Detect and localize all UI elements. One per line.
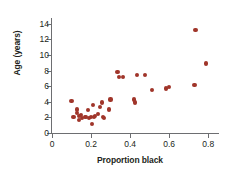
y-tick-label: 2: [44, 112, 49, 122]
scatter-plot-figure: Age (years) Proportion black 02468101214…: [0, 0, 238, 175]
data-point: [108, 97, 112, 101]
y-tick-label: 4: [44, 97, 49, 107]
x-tick-mark: [169, 133, 170, 138]
x-tick-mark: [91, 133, 92, 138]
x-tick-label: 0.4: [124, 139, 136, 149]
data-point: [167, 85, 171, 89]
data-point: [98, 105, 102, 109]
plot-area: 02468101214 00.20.40.60.8: [52, 19, 218, 133]
x-tick-label: 0.2: [85, 139, 97, 149]
x-axis-line: [51, 133, 219, 134]
data-point: [69, 99, 73, 103]
y-tick-label: 6: [44, 81, 49, 91]
data-point: [133, 100, 137, 104]
data-point: [204, 61, 208, 65]
data-point: [102, 116, 106, 120]
data-point: [121, 75, 125, 79]
x-tick-label: 0.6: [163, 139, 175, 149]
data-point: [193, 28, 197, 32]
y-tick-label: 8: [44, 66, 49, 76]
data-point: [107, 107, 111, 111]
data-point: [86, 108, 90, 112]
y-tick-label: 14: [40, 19, 49, 29]
y-tick-label: 12: [40, 34, 49, 44]
data-point: [90, 122, 94, 126]
x-tick-label: 0: [50, 139, 55, 149]
data-point: [115, 70, 119, 74]
x-tick-mark: [130, 133, 131, 138]
x-tick-mark: [208, 133, 209, 138]
data-point: [100, 100, 104, 104]
data-point: [96, 112, 100, 116]
data-point: [150, 88, 154, 92]
x-tick-mark: [52, 133, 53, 138]
data-point: [91, 103, 95, 107]
y-tick-label: 10: [40, 50, 49, 60]
y-axis-label: Age (years): [12, 8, 22, 98]
data-point: [135, 73, 139, 77]
y-tick-label: 0: [44, 128, 49, 138]
data-point: [71, 115, 75, 119]
data-point: [192, 83, 196, 87]
x-axis-label: Proportion black: [30, 155, 230, 165]
data-point: [143, 73, 147, 77]
x-tick-label: 0.8: [202, 139, 214, 149]
